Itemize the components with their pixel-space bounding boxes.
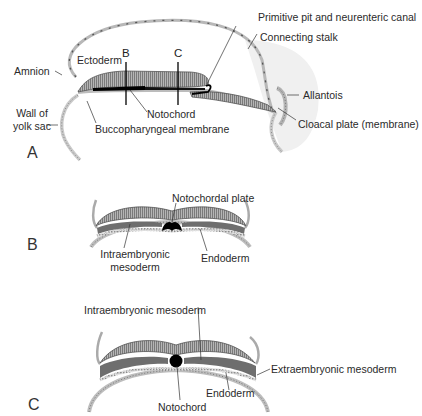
label-notochordal-plate: Notochordal plate xyxy=(172,192,254,204)
label-intraembryonic-1: Intraembryonic xyxy=(95,248,175,260)
label-extraembryonic-mesoderm: Extraembryonic mesoderm xyxy=(271,363,396,375)
label-amnion: Amnion xyxy=(14,65,50,77)
endoderm-b xyxy=(97,230,245,236)
label-connecting-stalk: Connecting stalk xyxy=(260,31,338,43)
label-notochord-c: Notochord xyxy=(158,401,206,413)
panel-letter-b: B xyxy=(27,236,38,254)
panel-b-drawing xyxy=(91,200,250,251)
notochord-c xyxy=(170,355,183,368)
label-wall-yolk-sac-2: yolk sac xyxy=(7,120,57,132)
panel-letter-c: C xyxy=(28,396,40,414)
yolk-sac-wall xyxy=(62,95,80,160)
label-intraembryonic-2: mesoderm xyxy=(95,261,175,273)
label-primitive-pit: Primitive pit and neurenteric canal xyxy=(258,11,416,23)
label-intraembryonic-mesoderm: Intraembryonic mesoderm xyxy=(84,304,206,316)
label-cloacal-plate: Cloacal plate (membrane) xyxy=(298,118,419,130)
panel-letter-a: A xyxy=(27,144,38,162)
label-ectoderm: Ectoderm xyxy=(77,54,122,66)
label-cut-b: B xyxy=(122,47,130,59)
label-allantois: Allantois xyxy=(303,89,343,101)
label-wall-yolk-sac-1: Wall of xyxy=(12,107,52,119)
diagram-artwork xyxy=(0,0,422,416)
label-notochord-a: Notochord xyxy=(147,108,195,120)
label-endoderm-c: Endoderm xyxy=(206,387,254,399)
label-endoderm-b: Endoderm xyxy=(201,252,249,264)
label-cut-c: C xyxy=(174,47,182,59)
label-buccopharyngeal: Buccopharyngeal membrane xyxy=(95,123,229,135)
